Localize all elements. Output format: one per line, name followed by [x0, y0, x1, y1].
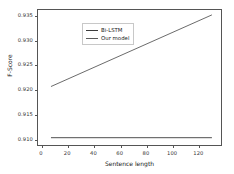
x-tick-mark: [173, 145, 174, 148]
legend-swatch-our-model: [86, 38, 98, 39]
y-tick-label: 0.925: [18, 61, 33, 67]
x-tick-mark: [68, 145, 69, 148]
y-tick-mark: [35, 41, 38, 42]
x-tick-mark: [199, 145, 200, 148]
x-tick-mark: [147, 145, 148, 148]
x-tick-label: 40: [90, 150, 97, 156]
x-tick-label: 20: [64, 150, 71, 156]
y-tick-mark: [35, 140, 38, 141]
legend-item-bi-lstm: Bi-LSTM: [86, 26, 129, 34]
plot-area: Bi-LSTM Our model: [37, 9, 222, 146]
legend-swatch-bi-lstm: [86, 30, 98, 31]
legend-box: Bi-LSTM Our model: [82, 23, 134, 45]
x-tick-mark: [42, 145, 43, 148]
figure-canvas: 0.9100.9150.9200.9250.9300.935 Bi-LSTM O…: [0, 0, 234, 174]
x-axis-title: Sentence length: [37, 160, 222, 167]
y-tick-label: 0.930: [18, 37, 33, 43]
y-tick-mark: [35, 90, 38, 91]
y-tick-mark: [35, 16, 38, 17]
y-tick-label: 0.910: [18, 136, 33, 142]
x-tick-label: 100: [167, 150, 177, 156]
legend-label-our-model: Our model: [101, 34, 129, 42]
x-tick-label: 60: [116, 150, 123, 156]
y-tick-label: 0.935: [18, 12, 33, 18]
x-tick-mark: [94, 145, 95, 148]
x-tick-label: 120: [193, 150, 203, 156]
y-axis-title: F-Score: [6, 36, 13, 96]
x-axis-tick-labels: 020406080100120: [37, 150, 222, 160]
x-tick-label: 80: [142, 150, 149, 156]
legend-label-bi-lstm: Bi-LSTM: [101, 26, 123, 34]
legend-item-our-model: Our model: [86, 34, 129, 42]
y-tick-mark: [35, 115, 38, 116]
x-tick-label: 0: [39, 150, 42, 156]
x-tick-mark: [121, 145, 122, 148]
y-tick-mark: [35, 65, 38, 66]
y-tick-label: 0.920: [18, 86, 33, 92]
y-tick-label: 0.915: [18, 111, 33, 117]
